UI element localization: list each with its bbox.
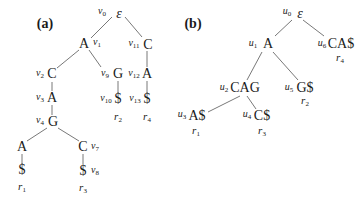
node-label-v4: v4 <box>36 115 44 127</box>
node-label-v0: v0 <box>98 6 106 18</box>
node-v9-symbol: G <box>113 67 123 81</box>
node-v13-symbol: $ <box>144 92 151 106</box>
node-label-v1: v1 <box>93 37 101 49</box>
node-label-u2: u2 <box>220 82 229 94</box>
node-v11-symbol: C <box>143 38 152 52</box>
node-v6-symbol: $ <box>19 163 26 177</box>
panel-label-b: (b) <box>184 17 201 31</box>
node-v2-symbol: C <box>47 67 56 81</box>
node-label-v3: v3 <box>36 92 44 104</box>
node-v10-symbol: $ <box>115 92 122 106</box>
node-v0-symbol: ε <box>116 7 122 21</box>
node-label-u6: u6 <box>318 38 327 50</box>
node-u2-symbol: CAG <box>230 81 260 95</box>
node-v7-symbol: C <box>78 140 87 154</box>
node-label-v9: v9 <box>101 68 109 80</box>
node-u6-symbol: CA$ <box>328 37 354 51</box>
node-label-u5: u5 <box>285 82 294 94</box>
node-label-v8: v8 <box>91 165 99 177</box>
node-u4-symbol: C$ <box>254 109 270 123</box>
read-label-r1-b: r1 <box>192 125 200 138</box>
node-v8-symbol: $ <box>80 164 87 178</box>
read-label-r3-a: r3 <box>79 182 87 195</box>
node-v4-symbol: G <box>48 115 58 129</box>
node-u0-symbol: ε <box>297 7 303 21</box>
node-v12-symbol: A <box>142 67 152 81</box>
read-label-r3-b: r3 <box>258 125 266 138</box>
node-label-v2: v2 <box>36 68 44 80</box>
node-label-u3: u3 <box>178 109 187 121</box>
node-label-u4: u4 <box>243 109 252 121</box>
node-v5-symbol: A <box>17 140 27 154</box>
read-label-r4-a: r4 <box>143 111 151 124</box>
node-u3-symbol: A$ <box>188 109 205 123</box>
node-label-u0: u0 <box>283 6 292 18</box>
node-label-v13: v13 <box>129 93 140 105</box>
read-label-r1-a: r1 <box>18 181 26 194</box>
node-label-v12: v12 <box>128 68 139 80</box>
read-label-r2-b: r2 <box>301 95 309 108</box>
read-label-r4-b: r4 <box>336 52 344 65</box>
node-u1-symbol: A <box>263 37 273 51</box>
panel-label-a: (a) <box>37 17 53 31</box>
node-v1-symbol: A <box>79 37 89 51</box>
node-label-u1: u1 <box>249 38 258 50</box>
node-v3-symbol: A <box>47 91 57 105</box>
node-label-v11: v11 <box>128 38 139 50</box>
read-label-r2-a: r2 <box>114 111 122 124</box>
node-label-v10: v10 <box>100 93 111 105</box>
node-label-v7: v7 <box>91 141 99 153</box>
